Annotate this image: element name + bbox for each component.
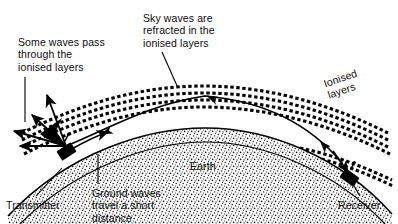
radio-propagation-diagram: Some waves pass through the ionised laye…: [0, 0, 398, 224]
label-receiver: Receiver: [338, 199, 380, 211]
label-ground-waves: Ground waves travel a short distance: [92, 187, 161, 224]
label-earth: Earth: [190, 160, 216, 172]
leader-sky-waves: [162, 52, 178, 88]
label-sky-waves-refracted: Sky waves are refracted in the ionised l…: [143, 12, 215, 49]
label-some-waves-pass: Some waves pass through the ionised laye…: [18, 36, 105, 73]
label-transmitter: Transmitter: [6, 199, 60, 211]
